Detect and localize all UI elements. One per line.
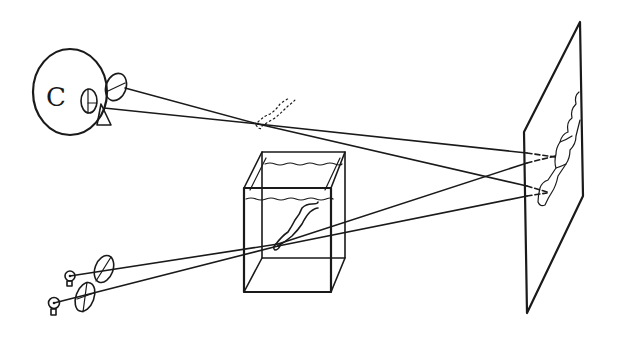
tank-edge-tl <box>244 152 262 188</box>
dash-2 <box>527 156 555 163</box>
illumination-rays <box>54 163 527 303</box>
tank-edge-br <box>331 258 345 292</box>
eye-icon: C <box>33 49 111 135</box>
dash-4 <box>527 193 547 196</box>
diagram-canvas: C <box>0 0 618 341</box>
virtual-fish-head <box>256 125 262 129</box>
tank-back-face <box>262 152 345 258</box>
viewing-rays <box>104 88 527 186</box>
eyeball <box>33 49 107 135</box>
dash-3 <box>527 186 547 192</box>
tank-icon <box>244 152 345 292</box>
ray-eye-upper <box>125 88 258 124</box>
ray-laser1-to-fish <box>70 244 278 276</box>
virtual-fish-bottom <box>262 100 295 126</box>
laser-2-icon <box>49 298 60 316</box>
tank-edge-bl <box>244 258 262 292</box>
diagram-svg: C <box>0 0 618 341</box>
water-surface-front <box>246 198 333 200</box>
laser-1-base <box>67 281 72 286</box>
tank-glass-edge-left <box>250 158 266 190</box>
water-surface-back <box>265 163 342 165</box>
laser-1-icon <box>65 271 75 286</box>
pupil <box>81 89 97 113</box>
tank-edge-tr <box>331 152 345 188</box>
eye-letter: C <box>46 82 66 112</box>
plate-fish-outline <box>538 92 580 206</box>
ray-eye-lower <box>104 108 258 124</box>
plate-icon <box>524 22 583 313</box>
recording-plate <box>524 22 583 313</box>
viewing-lens-axis <box>108 83 125 91</box>
ray-upper-to-plate-1 <box>258 124 527 153</box>
plate-dashed-rays <box>527 153 555 196</box>
laser-2-base <box>51 309 56 315</box>
